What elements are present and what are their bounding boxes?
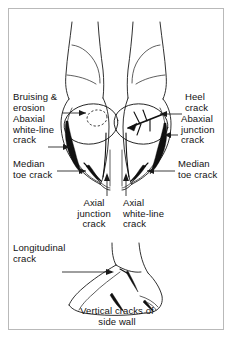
bruising-erosion-lesion [86, 108, 108, 127]
label-axial-white-line-crack: Axial white-line crack [123, 198, 164, 230]
label-abaxial-junction-crack: Abaxial junction crack [181, 114, 215, 146]
label-bruising-erosion: Bruising & erosion [13, 92, 57, 113]
label-longitudinal-crack: Longitudinal crack [13, 243, 65, 264]
leader-lines-bottom [62, 269, 114, 275]
figure-caption: Vertical cracks of side wall [47, 306, 187, 327]
label-abaxial-white-line-crack: Abaxial white-line crack [13, 114, 54, 146]
label-median-toe-crack-left: Median toe crack [13, 159, 52, 180]
label-heel-crack: Heel crack [185, 92, 208, 113]
vertical-crack-1 [126, 271, 138, 292]
abaxial-junction-crack-lesion [150, 123, 167, 174]
digit-upper-limb [66, 22, 167, 99]
claws-group [61, 98, 171, 190]
figure-root: Bruising & erosion Abaxial white-line cr… [0, 0, 233, 345]
label-axial-junction-crack: Axial junction crack [72, 198, 116, 230]
label-median-toe-crack-right: Median toe crack [178, 159, 217, 180]
